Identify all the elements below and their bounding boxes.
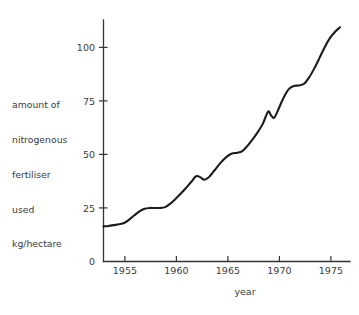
chart-container: amount of nitrogenous fertiliser used kg… [0, 0, 359, 315]
y-axis-title: amount of nitrogenous fertiliser used kg… [12, 76, 96, 273]
x-tick-label-1975: 1975 [319, 265, 343, 276]
x-axis-title: year [234, 286, 255, 297]
y-axis-title-line-2: nitrogenous [12, 134, 96, 146]
x-tick-marks [125, 256, 331, 262]
y-axis-title-line-3: fertiliser [12, 169, 96, 181]
y-tick-label-100: 100 [77, 42, 95, 53]
y-axis-title-line-5: kg/hectare [12, 238, 96, 250]
x-tick-labels: 1955 1960 1965 1970 1975 [113, 265, 343, 276]
x-tick-label-1960: 1960 [164, 265, 188, 276]
x-tick-label-1965: 1965 [216, 265, 240, 276]
y-axis-title-line-1: amount of [12, 99, 96, 111]
x-tick-label-1970: 1970 [267, 265, 291, 276]
x-tick-label-1955: 1955 [113, 265, 137, 276]
y-axis-title-line-4: used [12, 204, 96, 216]
data-series-line [104, 27, 341, 226]
